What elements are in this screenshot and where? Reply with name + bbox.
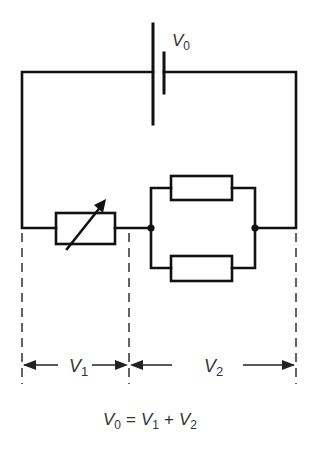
battery-label: V0: [172, 31, 190, 53]
voltage-equation: V0=V1+V2: [103, 410, 197, 432]
junction-node-right: [251, 224, 258, 231]
parallel-branch: [151, 176, 255, 281]
battery-symbol: [153, 24, 164, 124]
resistor-top-symbol: [171, 176, 232, 200]
resistor-bottom-symbol: [171, 256, 232, 281]
v1-label: V1: [69, 356, 88, 379]
junction-node-left: [147, 224, 154, 231]
circuit-diagram: V0 V1 V2 V0=V1+V2: [0, 0, 328, 463]
v2-label: V2: [204, 356, 223, 379]
variable-resistor-symbol: [56, 205, 115, 249]
